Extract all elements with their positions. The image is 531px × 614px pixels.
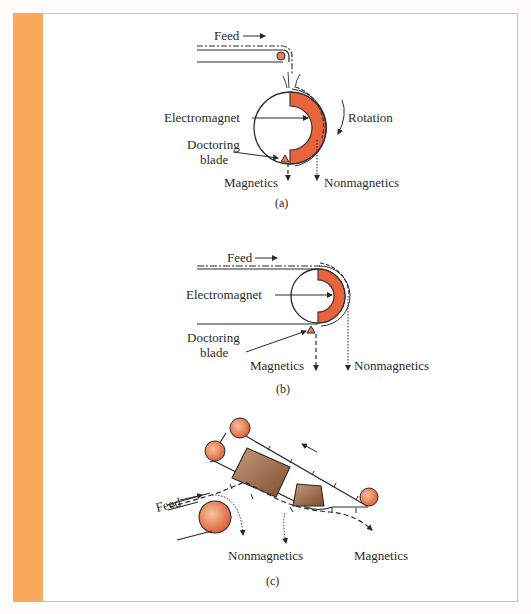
roller-icon (360, 488, 378, 506)
feed-drum-icon (199, 501, 231, 533)
panel-b: Feed Electromagnet Doctoring blade Magne… (186, 250, 429, 396)
doctoring-label-a-line1: Doctoring (187, 137, 240, 152)
magnetics-label-a: Magnetics (224, 175, 278, 190)
magnetic-separator-diagram: Feed Electromagnet Rotation Doctoring bl… (0, 0, 531, 614)
caption-c: (c) (266, 574, 279, 588)
caption-b: (b) (276, 382, 290, 396)
nonmagnetics-label-b: Nonmagnetics (354, 358, 429, 373)
magnet-block-icon (293, 484, 324, 506)
electromagnet-label-b: Electromagnet (186, 287, 262, 302)
doctoring-blade-icon-b (307, 326, 315, 333)
feed-label-b: Feed (227, 250, 253, 265)
magnet-block-icon (232, 448, 290, 497)
roller-icon (230, 418, 250, 438)
doctoring-label-a-line2: blade (200, 152, 228, 167)
feed-label-a: Feed (214, 28, 240, 43)
doctoring-label-b-line2: blade (200, 345, 228, 360)
nonmagnetics-label-a: Nonmagnetics (324, 175, 399, 190)
caption-a: (a) (275, 196, 288, 210)
doctoring-label-b-line1: Doctoring (187, 330, 240, 345)
roller-icon (205, 441, 225, 461)
electromagnet-label-a: Electromagnet (164, 110, 240, 125)
magnetics-label-c: Magnetics (354, 548, 408, 563)
magnetics-label-b: Magnetics (250, 358, 304, 373)
panel-c: Feed Nonmagnetics Magnetics (c) (154, 418, 408, 588)
nonmagnetics-label-c: Nonmagnetics (228, 548, 303, 563)
rotation-label: Rotation (348, 110, 393, 125)
head-pulley-icon (277, 52, 285, 60)
panel-a: Feed Electromagnet Rotation Doctoring bl… (164, 28, 399, 210)
